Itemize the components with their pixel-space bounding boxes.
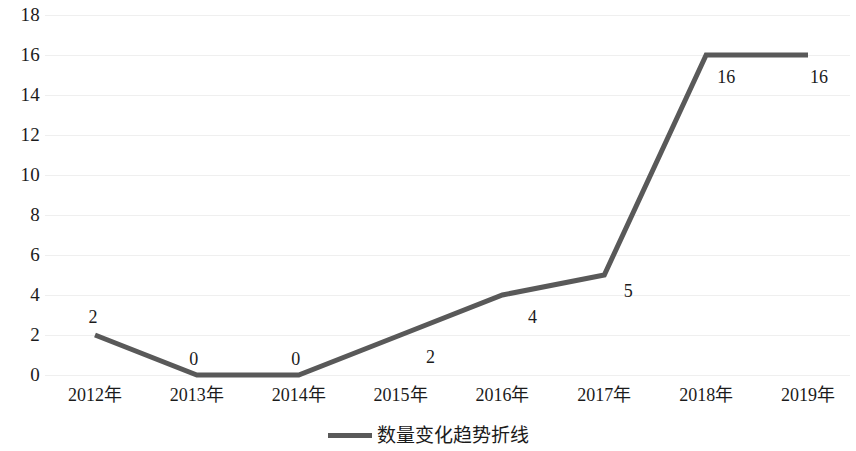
- y-tick-label: 10: [6, 165, 40, 184]
- y-tick-label: 14: [6, 85, 40, 104]
- line-chart: 024681012141618 2002451616 2012年2013年201…: [0, 0, 856, 451]
- data-point-label: 5: [624, 282, 633, 300]
- x-axis: 2012年2013年2014年2015年2016年2017年2018年2019年: [45, 383, 850, 409]
- y-axis: 024681012141618: [0, 15, 40, 375]
- gridline: [45, 375, 850, 376]
- plot-area: 2002451616: [45, 15, 850, 375]
- data-point-label: 4: [528, 308, 537, 326]
- y-tick-label: 2: [6, 325, 40, 344]
- data-point-label: 0: [291, 350, 300, 368]
- legend-line-swatch-icon: [328, 433, 372, 438]
- data-point-label: 0: [189, 350, 198, 368]
- x-tick-label: 2019年: [781, 383, 835, 407]
- x-tick-label: 2013年: [170, 383, 224, 407]
- x-tick-label: 2015年: [374, 383, 428, 407]
- x-tick-label: 2014年: [272, 383, 326, 407]
- y-tick-label: 12: [6, 125, 40, 144]
- y-tick-label: 18: [6, 5, 40, 24]
- legend-item-quantity-trend: 数量变化趋势折线: [328, 425, 529, 447]
- chart-legend: 数量变化趋势折线: [0, 420, 856, 451]
- y-tick-label: 8: [6, 205, 40, 224]
- series-polyline-quantity-trend: [95, 55, 808, 375]
- y-tick-label: 4: [6, 285, 40, 304]
- x-tick-label: 2017年: [577, 383, 631, 407]
- data-point-label: 2: [426, 348, 435, 366]
- x-tick-label: 2012年: [68, 383, 122, 407]
- y-tick-label: 6: [6, 245, 40, 264]
- x-tick-label: 2018年: [679, 383, 733, 407]
- data-point-label: 2: [89, 308, 98, 326]
- x-tick-label: 2016年: [475, 383, 529, 407]
- legend-item-label: 数量变化趋势折线: [377, 425, 529, 447]
- y-tick-label: 0: [6, 365, 40, 384]
- data-point-label: 16: [810, 68, 828, 86]
- data-point-label: 16: [717, 68, 735, 86]
- y-tick-label: 16: [6, 45, 40, 64]
